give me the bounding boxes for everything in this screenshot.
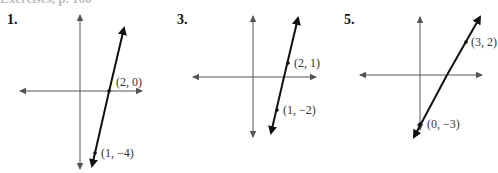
point-label: (2, 0): [116, 75, 142, 89]
panel-5-graph: (3, 2) (0, −3): [360, 17, 497, 137]
point-label: (3, 2): [471, 35, 497, 49]
graphs-canvas: (2, 0) (1, −4) (2, 1) (1, −2) (3, 2) (0,…: [0, 0, 498, 173]
point-label: (0, −3): [427, 117, 460, 131]
point-label: (1, −2): [283, 103, 316, 117]
point-label: (1, −4): [101, 146, 134, 160]
point-marker: [93, 151, 97, 155]
panel-1-graph: (2, 0) (1, −4): [20, 15, 142, 169]
panel-3-graph: (2, 1) (1, −2): [193, 16, 320, 137]
point-marker: [464, 40, 468, 44]
point-marker: [418, 122, 422, 126]
point-marker: [275, 108, 279, 112]
point-marker: [107, 89, 111, 93]
point-marker: [286, 61, 290, 65]
point-label: (2, 1): [294, 56, 320, 70]
